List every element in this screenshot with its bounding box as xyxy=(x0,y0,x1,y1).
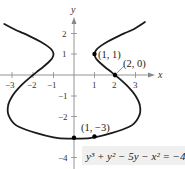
point-label-1-m3: (1, −3) xyxy=(81,122,110,134)
point-0-m3 xyxy=(72,136,76,140)
x-axis-label: x xyxy=(157,69,163,80)
equation-label: y³ + y² − 5y − x² = −4 xyxy=(85,150,185,162)
point-1-1 xyxy=(92,52,96,56)
x-tick-label: 1 xyxy=(92,80,97,90)
y-axis-label: y xyxy=(70,4,76,15)
y-tick-label: −1 xyxy=(58,91,68,101)
y-axis-arrow-icon xyxy=(72,17,77,24)
y-tick-label: −2 xyxy=(58,112,68,122)
y-tick-label: −4 xyxy=(58,153,68,163)
point-label-1-1: (1, 1) xyxy=(98,49,121,61)
curve-path xyxy=(4,22,145,139)
x-tick-label: −1 xyxy=(47,80,57,90)
graph-canvas: x y −3 −2 −1 1 2 3 2 1 −1 −2 −4 (1, 1) (… xyxy=(0,0,185,169)
x-tick-label: 2 xyxy=(112,80,117,90)
x-tick-label: −3 xyxy=(5,80,15,90)
point-label-2-0: (2, 0) xyxy=(123,58,146,70)
y-tick-label: 1 xyxy=(62,49,67,59)
x-axis-arrow-icon xyxy=(148,73,155,78)
x-tick-label: 3 xyxy=(133,80,138,90)
point-1-m3 xyxy=(92,134,96,138)
x-tick-label: −2 xyxy=(27,80,37,90)
y-tick-label: 2 xyxy=(62,29,67,39)
point-2-0 xyxy=(113,73,117,77)
